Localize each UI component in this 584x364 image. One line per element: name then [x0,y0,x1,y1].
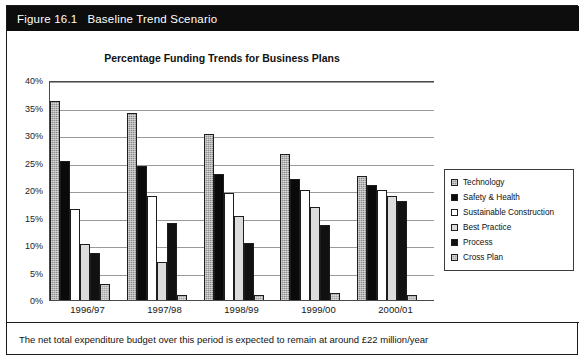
x-axis-tick: 1996/97 [49,304,126,320]
bar [387,196,397,301]
legend-item: Best Practice [451,220,568,235]
y-axis-labels: 40%35%30%25%20%15%10%5%0% [7,81,47,301]
bar [80,244,90,300]
legend-item-label: Sustainable Construction [463,208,554,217]
y-axis-tick: 30% [25,131,43,141]
figure-frame: Figure 16.1 Baseline Trend Scenario Perc… [6,5,578,355]
x-axis-tick: 2000/01 [357,304,434,320]
bar [137,166,147,300]
x-axis-labels: 1996/971997/981998/991999/002000/01 [49,304,434,320]
y-axis-tick: 0% [30,296,43,306]
bar [167,223,177,300]
x-axis-tick: 1997/98 [126,304,203,320]
bar-groups [50,82,434,300]
bar [177,295,187,301]
bar [254,295,264,301]
bar [367,185,377,301]
y-axis-tick: 10% [25,241,43,251]
bar [244,243,254,300]
bar [224,193,234,300]
bar [290,179,300,300]
y-axis-tick: 15% [25,214,43,224]
bar [357,176,367,300]
gray-swatch [451,254,458,261]
bar [320,225,330,300]
x-axis-tick: 1998/99 [203,304,280,320]
legend-item: Technology [451,175,568,190]
bar [60,161,70,300]
figure-number: Figure 16.1 [17,13,77,25]
legend-item: Safety & Health [451,190,568,205]
footer-note-text: The net total expenditure budget over th… [19,334,428,345]
black-solid-swatch [451,239,458,246]
bar [310,207,320,301]
legend-item-label: Process [463,238,493,247]
bar-group [127,82,204,300]
bar [157,262,167,301]
bar-group [280,82,357,300]
bar [280,154,290,300]
legend-item-label: Best Practice [463,223,511,232]
bar [234,216,244,300]
white-swatch [451,209,458,216]
bar [127,113,137,300]
bar [377,190,387,300]
bar [100,284,110,301]
bar-group [357,82,434,300]
black-solid-swatch [451,194,458,201]
light-gray-swatch [451,224,458,231]
figure-titlebar: Figure 16.1 Baseline Trend Scenario [7,6,579,31]
gray-hatched-swatch [451,179,458,186]
bar [397,201,407,300]
y-axis-tick: 35% [25,104,43,114]
bar [204,134,214,300]
legend-item-label: Safety & Health [463,193,520,202]
bar [50,101,60,300]
plot-area [49,81,434,301]
y-axis-tick: 40% [25,76,43,86]
legend-item-label: Technology [463,178,504,187]
bar [90,253,100,300]
y-axis-tick: 25% [25,159,43,169]
chart-panel: Percentage Funding Trends for Business P… [7,31,579,322]
legend-item-label: Cross Plan [463,253,503,262]
bar [300,190,310,300]
chart-legend: TechnologySafety & HealthSustainable Con… [444,169,574,271]
footer-note: The net total expenditure budget over th… [7,322,579,355]
bar [330,293,340,300]
legend-item: Sustainable Construction [451,205,568,220]
bar [70,209,80,300]
bar [147,196,157,301]
legend-item: Process [451,235,568,250]
bar [214,174,224,301]
y-axis-tick: 20% [25,186,43,196]
legend-item: Cross Plan [451,250,568,265]
chart-title: Percentage Funding Trends for Business P… [7,52,437,64]
y-axis-tick: 5% [30,269,43,279]
bar-group [204,82,281,300]
x-axis-tick: 1999/00 [280,304,357,320]
bar-group [50,82,127,300]
bar [407,295,417,301]
figure-title: Baseline Trend Scenario [87,13,217,25]
